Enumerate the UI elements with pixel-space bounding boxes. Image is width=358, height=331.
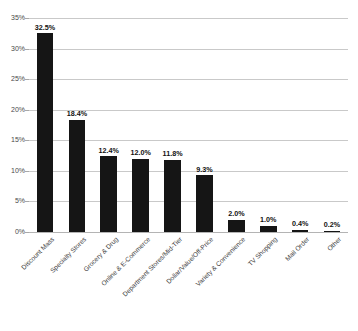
x-axis-category-label: TV Shopping xyxy=(245,234,277,266)
bar-rect[interactable] xyxy=(260,226,277,232)
bar-value-label: 18.4% xyxy=(67,110,87,118)
y-axis-tick-label: 0% xyxy=(1,228,25,235)
x-axis-category-label: Other xyxy=(324,234,341,251)
bar-value-label: 9.3% xyxy=(196,166,212,174)
bar-item[interactable]: 32.5% xyxy=(37,18,54,232)
bar-rect[interactable] xyxy=(164,160,181,232)
bar-value-label: 32.5% xyxy=(35,24,55,32)
x-axis-category-label: Department Stores/Mid-Tier xyxy=(119,234,181,296)
bar-series: 32.5%18.4%12.4%12.0%11.8%9.3%2.0%1.0%0.4… xyxy=(29,18,348,232)
bar-item[interactable]: 18.4% xyxy=(69,18,86,232)
bar-item[interactable]: 9.3% xyxy=(196,18,213,232)
bar-rect[interactable] xyxy=(292,230,309,232)
x-axis-category-label: Mail Order xyxy=(282,234,309,261)
bar-value-label: 2.0% xyxy=(228,210,244,218)
bar-rect[interactable] xyxy=(100,156,117,232)
gridline xyxy=(29,232,348,233)
bar-item[interactable]: 0.2% xyxy=(324,18,341,232)
bar-rect[interactable] xyxy=(69,120,86,233)
bar-value-label: 0.2% xyxy=(324,221,340,229)
bar-value-label: 12.4% xyxy=(99,147,119,155)
y-axis-tick-label: 35% xyxy=(1,14,25,21)
bar-value-label: 0.4% xyxy=(292,220,308,228)
bar-item[interactable]: 12.4% xyxy=(100,18,117,232)
bar-chart: 0%5%10%15%20%25%30%35% 32.5%18.4%12.4%12… xyxy=(0,0,358,331)
plot-area: 32.5%18.4%12.4%12.0%11.8%9.3%2.0%1.0%0.4… xyxy=(29,18,348,232)
y-axis-tick-label: 30% xyxy=(1,45,25,52)
y-axis-tick-label: 10% xyxy=(1,167,25,174)
bar-item[interactable]: 11.8% xyxy=(164,18,181,232)
bar-rect[interactable] xyxy=(37,33,54,232)
bar-rect[interactable] xyxy=(324,231,341,232)
bar-rect[interactable] xyxy=(132,159,149,232)
bar-rect[interactable] xyxy=(228,220,245,232)
bar-item[interactable]: 12.0% xyxy=(132,18,149,232)
bar-item[interactable]: 2.0% xyxy=(228,18,245,232)
y-axis-tick-label: 20% xyxy=(1,106,25,113)
bar-item[interactable]: 0.4% xyxy=(292,18,309,232)
bar-value-label: 1.0% xyxy=(260,216,276,224)
y-axis-tick-label: 5% xyxy=(1,197,25,204)
x-axis-labels: Discount MassSpecialty StoresGrocery & D… xyxy=(29,234,348,331)
bar-item[interactable]: 1.0% xyxy=(260,18,277,232)
bar-rect[interactable] xyxy=(196,175,213,232)
chart-title xyxy=(0,0,358,1)
x-axis-category-label: Discount Mass xyxy=(18,234,54,270)
y-axis-tick-label: 25% xyxy=(1,75,25,82)
bar-value-label: 12.0% xyxy=(130,149,150,157)
bar-value-label: 11.8% xyxy=(163,150,183,158)
y-axis-tick-label: 15% xyxy=(1,136,25,143)
